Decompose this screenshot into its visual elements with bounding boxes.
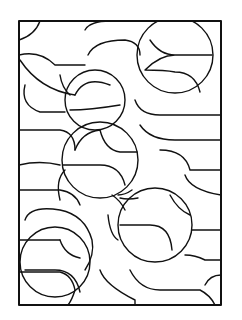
coloring-page-artwork bbox=[0, 0, 242, 320]
leaf-shape bbox=[19, 130, 75, 150]
leaf-shape bbox=[108, 195, 125, 240]
leaf-shape bbox=[100, 270, 135, 305]
leaf-shape bbox=[135, 100, 221, 115]
line-art-canvas bbox=[0, 0, 242, 320]
leaf-shape bbox=[19, 272, 75, 305]
s-curve bbox=[120, 195, 190, 250]
leaf-shape bbox=[19, 21, 85, 65]
leaf-shape bbox=[140, 125, 221, 140]
s-curve bbox=[63, 130, 137, 185]
leaf-shape bbox=[85, 21, 140, 55]
leaf-shape bbox=[185, 175, 221, 195]
circle-shape bbox=[20, 227, 90, 297]
s-curve bbox=[70, 82, 120, 110]
leaf-shape bbox=[185, 255, 221, 260]
leaf-shape bbox=[19, 190, 80, 205]
leaf-shape bbox=[19, 163, 60, 166]
s-curve bbox=[145, 40, 212, 92]
leaf-shape bbox=[58, 170, 65, 200]
leaf-shape bbox=[130, 270, 215, 305]
s-curve bbox=[25, 240, 80, 292]
circle-shape bbox=[62, 122, 138, 198]
leaf-shape bbox=[160, 150, 221, 170]
leaf-shape bbox=[24, 85, 65, 112]
circle-shape bbox=[65, 70, 125, 130]
leaf-shape bbox=[205, 275, 221, 285]
